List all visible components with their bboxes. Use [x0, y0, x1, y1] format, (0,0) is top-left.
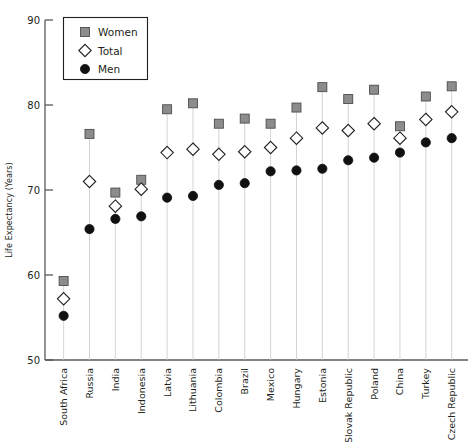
- point-total: [239, 146, 251, 158]
- point-men: [188, 191, 197, 200]
- point-men: [214, 180, 223, 189]
- point-men: [447, 134, 456, 143]
- x-tick-label: Lithuania: [187, 368, 198, 412]
- y-axis-ticks: 5060708090: [27, 15, 53, 366]
- point-men: [85, 225, 94, 234]
- point-men: [292, 166, 301, 175]
- point-total: [109, 200, 121, 212]
- point-total: [368, 118, 380, 130]
- x-tick-label: China: [394, 368, 405, 395]
- y-tick-label: 80: [27, 100, 40, 111]
- point-women: [240, 114, 249, 123]
- point-total: [213, 148, 225, 160]
- x-tick-label: Russia: [84, 368, 95, 399]
- legend[interactable]: WomenTotalMen: [64, 18, 148, 80]
- point-total: [264, 141, 276, 153]
- point-women: [370, 85, 379, 94]
- point-total: [83, 175, 95, 187]
- point-men: [137, 212, 146, 221]
- x-tick-label: Colombia: [213, 368, 224, 413]
- x-axis-labels: South AfricaRussiaIndiaIndonesiaLatviaLi…: [58, 368, 457, 442]
- point-total: [342, 124, 354, 136]
- life-expectancy-chart: Life Expectancy (Years) 5060708090 South…: [0, 0, 476, 442]
- point-men: [163, 193, 172, 202]
- y-tick-label: 50: [27, 355, 40, 366]
- point-total: [394, 132, 406, 144]
- point-total: [135, 183, 147, 195]
- point-men: [111, 214, 120, 223]
- x-tick-label: Latvia: [162, 368, 173, 397]
- point-men: [59, 311, 68, 320]
- point-total: [187, 143, 199, 155]
- x-tick-label: India: [110, 368, 121, 391]
- point-men: [369, 153, 378, 162]
- x-tick-label: Turkey: [420, 368, 431, 400]
- point-women: [318, 83, 327, 92]
- point-women: [395, 122, 404, 131]
- y-tick-label: 90: [27, 15, 40, 26]
- point-total: [57, 293, 69, 305]
- x-tick-label: Estonia: [317, 368, 328, 403]
- legend-label: Total: [97, 45, 123, 57]
- legend-label: Men: [98, 63, 120, 75]
- x-tick-label: Poland: [369, 368, 380, 400]
- point-total: [161, 146, 173, 158]
- point-women: [421, 92, 430, 101]
- x-tick-label: Brazil: [239, 368, 250, 395]
- point-women: [85, 129, 94, 138]
- x-tick-label: Slovak Republic: [343, 368, 354, 442]
- y-axis-title: Life Expectancy (Years): [5, 162, 14, 258]
- legend-label: Women: [98, 26, 138, 38]
- x-tick-label: Hungary: [291, 368, 302, 409]
- y-axis-title-text: Life Expectancy (Years): [5, 162, 14, 258]
- y-tick-label: 60: [27, 270, 40, 281]
- x-tick-label: South Africa: [58, 368, 69, 426]
- point-women: [111, 188, 120, 197]
- stem-lines: [64, 86, 452, 360]
- legend-marker-women: [81, 28, 90, 37]
- chart-canvas: Life Expectancy (Years) 5060708090 South…: [0, 0, 476, 442]
- point-men: [421, 138, 430, 147]
- point-total: [420, 113, 432, 125]
- point-men: [266, 167, 275, 176]
- point-women: [163, 105, 172, 114]
- point-women: [59, 276, 68, 285]
- point-women: [188, 99, 197, 108]
- point-total: [316, 122, 328, 134]
- point-men: [318, 164, 327, 173]
- point-women: [266, 119, 275, 128]
- point-men: [344, 156, 353, 165]
- legend-marker-men: [80, 64, 89, 73]
- point-women: [292, 103, 301, 112]
- x-tick-label: Czech Republic: [446, 368, 457, 440]
- point-men: [395, 148, 404, 157]
- point-women: [214, 119, 223, 128]
- point-women: [447, 82, 456, 91]
- y-tick-label: 70: [27, 185, 40, 196]
- x-tick-label: Mexico: [265, 368, 276, 401]
- point-women: [344, 95, 353, 104]
- data-points: [57, 82, 457, 321]
- x-tick-label: Indonesia: [136, 368, 147, 414]
- point-total: [290, 132, 302, 144]
- point-total: [446, 106, 458, 118]
- point-men: [240, 179, 249, 188]
